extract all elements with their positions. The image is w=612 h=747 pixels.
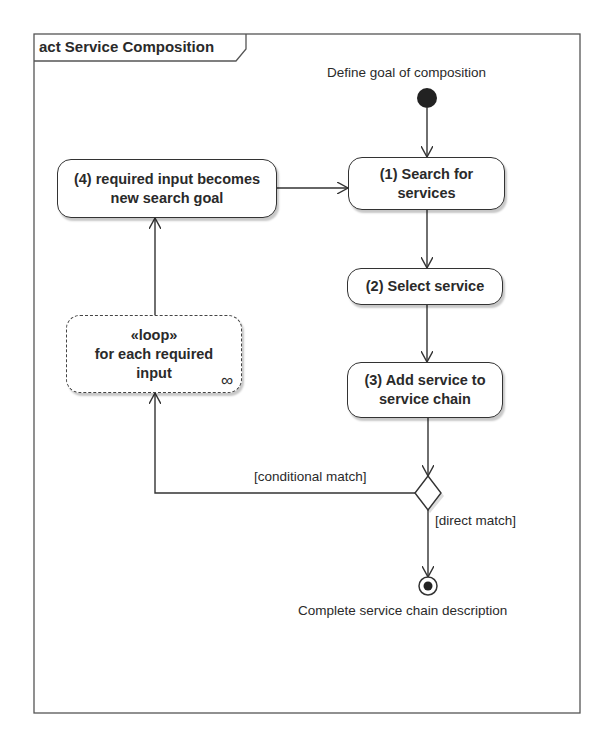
guard-direct-match: [direct match]	[435, 513, 516, 528]
loop-stereotype: «loop»	[131, 326, 178, 345]
action-search-services[interactable]: (1) Search for services	[348, 157, 505, 210]
action-new-search-goal-line2: new search goal	[111, 189, 224, 208]
action-select-service-label: (2) Select service	[366, 277, 485, 296]
action-search-services-line2: services	[397, 184, 455, 203]
decision-node	[415, 476, 441, 510]
final-node-inner	[424, 582, 433, 591]
loop-node[interactable]: «loop» for each required input ∞	[66, 315, 242, 393]
frame-title: act Service Composition	[39, 38, 214, 55]
action-add-service-line2: service chain	[379, 390, 471, 409]
action-select-service[interactable]: (2) Select service	[347, 268, 503, 305]
final-node-label: Complete service chain description	[298, 603, 507, 618]
action-search-services-line1: (1) Search for	[380, 165, 473, 184]
action-add-service[interactable]: (3) Add service to service chain	[347, 362, 503, 418]
action-add-service-line1: (3) Add service to	[364, 371, 485, 390]
action-new-search-goal-line1: (4) required input becomes	[74, 170, 260, 189]
loop-label-line1: for each required	[95, 345, 213, 364]
guard-conditional-match: [conditional match]	[254, 469, 367, 484]
initial-node-label: Define goal of composition	[327, 65, 486, 80]
loop-label-line2: input	[136, 364, 171, 383]
infinity-icon: ∞	[221, 371, 233, 390]
action-new-search-goal[interactable]: (4) required input becomes new search go…	[57, 159, 277, 218]
initial-node	[417, 88, 437, 108]
